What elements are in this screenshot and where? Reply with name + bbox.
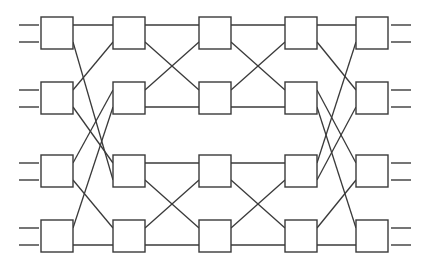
switch-box-c1-r1: [41, 17, 73, 49]
stage-1-wire-2: [73, 42, 113, 90]
switch-box-c1-r3: [41, 155, 73, 187]
stage-1-wire-3: [73, 107, 113, 163]
switch-box-c3-r2: [199, 82, 231, 114]
interstage-wires: [73, 25, 356, 245]
switch-box-c4-r3: [285, 155, 317, 187]
switch-box-c1-r2: [41, 82, 73, 114]
switch-box-c2-r4: [113, 220, 145, 252]
switch-box-c3-r4: [199, 220, 231, 252]
stage-4-wire-6: [317, 180, 356, 228]
stage-1-wire-5: [73, 180, 113, 228]
stage-4-wire-1: [317, 42, 356, 90]
switch-box-c1-r4: [41, 220, 73, 252]
switch-box-c4-r1: [285, 17, 317, 49]
switch-box-c2-r3: [113, 155, 145, 187]
switch-box-c5-r2: [356, 82, 388, 114]
stage-1-wire-1: [73, 42, 113, 180]
benes-network-diagram: [0, 0, 425, 268]
switch-box-c2-r1: [113, 17, 145, 49]
switch-box-c5-r1: [356, 17, 388, 49]
switch-box-c3-r1: [199, 17, 231, 49]
switch-box-c4-r2: [285, 82, 317, 114]
switch-box-c5-r3: [356, 155, 388, 187]
switch-box-c3-r3: [199, 155, 231, 187]
switch-box-c5-r4: [356, 220, 388, 252]
switch-box-c4-r4: [285, 220, 317, 252]
switch-box-c2-r2: [113, 82, 145, 114]
